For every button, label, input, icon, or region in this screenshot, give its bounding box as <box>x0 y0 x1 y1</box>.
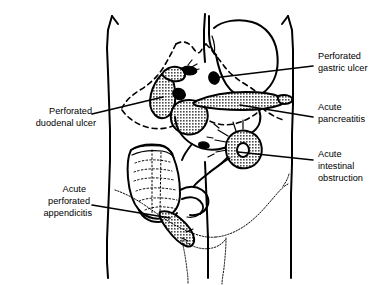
label-acute-pancreatitis-line2: pancreatitis <box>318 114 365 124</box>
label-acute-pancreatitis-line1: Acute <box>318 102 342 112</box>
label-perforated-gastric-ulcer-line2: gastric ulcer <box>318 63 368 73</box>
label-acute-intestinal-obstruction-line2: intestinal <box>318 161 354 171</box>
figure-container: Perforated gastric ulcer Acute pancreati… <box>0 0 388 285</box>
label-acute-perforated-appendicitis-line3: appendicitis <box>43 208 92 218</box>
label-perforated-gastric-ulcer-line1: Perforated <box>318 51 361 61</box>
label-acute-perforated-appendicitis-line2: perforated <box>48 196 90 206</box>
label-perforated-duodenal-ulcer-line2: duodenal ulcer <box>36 118 96 128</box>
label-acute-intestinal-obstruction-line3: obstruction <box>318 173 363 183</box>
label-acute-intestinal-obstruction-line1: Acute <box>318 149 342 159</box>
label-perforated-duodenal-ulcer-line1: Perforated <box>49 106 92 116</box>
label-acute-perforated-appendicitis-line1: Acute <box>63 184 87 194</box>
abdomen-diagram: Perforated gastric ulcer Acute pancreati… <box>0 0 388 285</box>
